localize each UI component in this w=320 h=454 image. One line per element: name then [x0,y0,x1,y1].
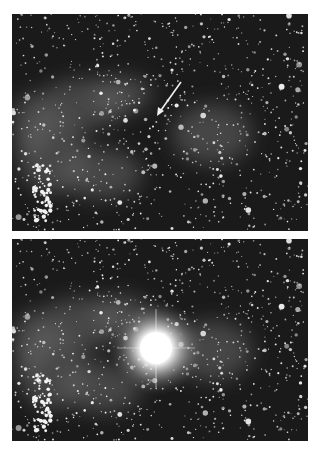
star [288,228,290,230]
star [196,134,199,137]
star [95,249,96,250]
star [199,283,200,284]
star [259,41,261,43]
star [213,411,214,412]
star [150,174,151,175]
star [33,57,35,59]
star [290,124,292,126]
star [201,193,204,196]
star [217,127,218,128]
star [301,30,302,31]
star [249,113,250,114]
star [230,414,232,416]
star [23,55,25,57]
star [131,241,133,243]
star [294,416,295,417]
star [123,403,124,404]
star [246,369,248,371]
star [12,133,14,135]
star [117,54,119,56]
star [96,223,98,225]
star [42,420,44,422]
star [286,165,287,166]
star [243,16,244,17]
star [236,252,237,253]
star [200,246,203,249]
star [190,419,191,420]
star [100,431,104,435]
star [260,402,262,404]
star [103,296,105,298]
star [193,69,195,71]
star [304,149,307,152]
star [106,182,108,184]
star [268,83,270,85]
star [156,174,157,175]
star [58,260,60,262]
star [300,310,301,311]
star [241,203,242,204]
star [249,303,251,305]
star [118,229,120,231]
star [212,357,215,360]
star [140,131,141,132]
star [175,279,177,281]
star [52,438,54,440]
star [290,306,291,307]
star [228,313,229,314]
star [228,197,231,200]
star [117,240,119,242]
star [238,69,240,71]
star [220,157,223,160]
star [273,276,274,277]
star [132,425,134,427]
star [265,369,267,371]
star [141,408,142,409]
star [154,21,156,23]
star [126,141,128,143]
star [168,247,170,249]
star [111,55,113,57]
star [133,102,135,104]
star [117,117,118,118]
star [124,184,126,186]
star [38,395,39,396]
star [270,303,271,304]
star [42,318,43,319]
star [172,258,173,259]
star [201,266,203,268]
star [291,118,292,119]
star [302,273,304,275]
star [41,31,42,32]
star [54,256,55,257]
star [246,40,247,41]
star [55,104,56,105]
star [170,62,172,64]
star [110,302,111,303]
star [42,346,43,347]
star-field-after [12,239,308,441]
star [108,70,109,71]
star [96,347,98,349]
star [143,92,145,94]
star [31,251,33,253]
star [217,140,218,141]
star [79,15,81,17]
star [41,201,44,204]
star [200,214,201,215]
star [133,413,135,415]
star [259,264,261,266]
star [271,48,273,50]
star [214,426,216,428]
star [210,18,211,19]
star [102,128,104,130]
star [28,153,29,154]
star [105,412,107,414]
star [54,389,55,390]
star [292,342,293,343]
star [109,125,111,127]
star [126,83,128,85]
star [175,242,177,244]
star [219,293,220,294]
star [301,305,302,306]
